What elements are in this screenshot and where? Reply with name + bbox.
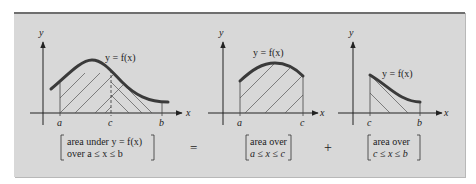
curve-f (51, 60, 168, 102)
caption-line-2: a ≤ x ≤ c (250, 148, 285, 159)
tick-c: c (108, 117, 113, 128)
tick-a: a (57, 117, 62, 128)
area-additivity-diagram: y x y = f(x) a c b area under y = f(x) o… (0, 0, 476, 184)
curve-f (240, 63, 303, 81)
bracket-right (151, 135, 154, 160)
hatch-region-a-c (240, 63, 303, 113)
y-axis-label: y (218, 27, 224, 38)
bracket-left (61, 135, 64, 160)
graph-2: y x y = f(x) a c area over a ≤ x ≤ c (208, 27, 325, 160)
graph-3: y x y = f(x) c b area over c ≤ x ≤ b (338, 27, 449, 160)
curve-label: y = f(x) (253, 47, 284, 59)
caption-line-1: area over (373, 136, 411, 147)
tick-b: b (159, 117, 164, 128)
y-axis-label: y (38, 27, 44, 38)
x-axis-label: x (185, 107, 191, 118)
hatch-region-a-c-b (60, 72, 152, 113)
curve-label: y = f(x) (382, 68, 413, 80)
caption-line-2: c ≤ x ≤ b (373, 148, 408, 159)
x-axis-label: x (319, 107, 325, 118)
bracket-left (246, 135, 249, 160)
hatch-region-c-b (370, 75, 408, 113)
y-axis-label: y (348, 27, 354, 38)
graph-1: y x y = f(x) a c b area under y = f(x) o… (30, 27, 191, 160)
caption-line-2: over a ≤ x ≤ b (67, 148, 123, 159)
tick-c: c (300, 117, 305, 128)
x-axis-label: x (443, 107, 449, 118)
tick-c: c (367, 117, 372, 128)
curve-f (370, 75, 420, 102)
tick-a: a (237, 117, 242, 128)
plus-sign: + (324, 140, 332, 155)
caption-line-1: area under y = f(x) (67, 136, 142, 148)
equals-sign: = (190, 140, 197, 155)
caption-line-1: area over (250, 136, 288, 147)
bracket-left (368, 135, 371, 160)
bracket-right (417, 135, 420, 160)
bracket-right (288, 135, 291, 160)
tick-b: b (417, 117, 422, 128)
curve-label: y = f(x) (105, 52, 136, 64)
